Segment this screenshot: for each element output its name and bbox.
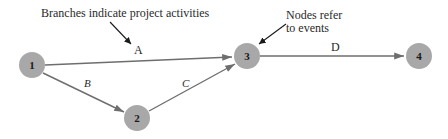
nodes-pointer-arrow bbox=[259, 24, 286, 44]
node-1: 1 bbox=[19, 52, 45, 78]
edge-label-a: A bbox=[134, 43, 143, 57]
edge-a bbox=[45, 57, 232, 65]
branches-pointer-arrow bbox=[110, 22, 131, 44]
edge-label-b: B bbox=[84, 77, 91, 89]
node-4: 4 bbox=[406, 43, 432, 69]
edge-c bbox=[149, 64, 235, 111]
node-1-label: 1 bbox=[29, 59, 35, 71]
activity-network-diagram: A B C D Branches indicate project activi… bbox=[0, 0, 448, 139]
node-4-label: 4 bbox=[416, 50, 422, 62]
edge-label-d: D bbox=[331, 40, 340, 54]
edge-label-c: C bbox=[182, 77, 190, 89]
node-2: 2 bbox=[124, 105, 150, 131]
nodes-annotation-line1: Nodes refer bbox=[286, 8, 342, 22]
branches-annotation: Branches indicate project activities bbox=[41, 6, 210, 20]
nodes-annotation-line2: to events bbox=[286, 21, 329, 35]
node-2-label: 2 bbox=[134, 112, 140, 124]
node-3: 3 bbox=[234, 43, 260, 69]
node-3-label: 3 bbox=[244, 50, 250, 62]
